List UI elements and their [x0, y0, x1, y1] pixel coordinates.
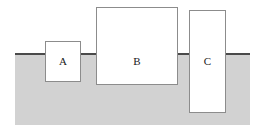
block-b-label: B [96, 56, 178, 67]
block-a-label: A [45, 56, 81, 67]
diagram-canvas: A B C [0, 0, 265, 134]
block-c-label: C [189, 56, 226, 67]
block-b [96, 7, 178, 85]
